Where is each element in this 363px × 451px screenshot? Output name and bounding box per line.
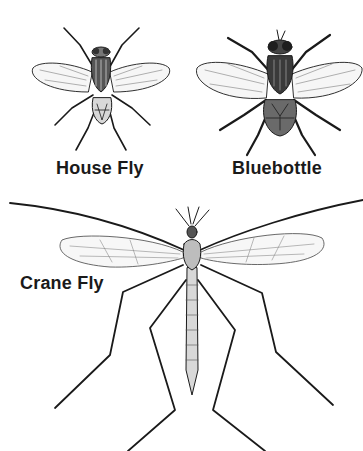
crane-fly-label: Crane Fly [20, 273, 104, 294]
house-fly-label: House Fly [56, 158, 144, 179]
bluebottle-label: Bluebottle [232, 158, 322, 179]
house-fly-drawing [32, 28, 169, 150]
fly-illustration: House Fly Bluebottle Crane Fly [0, 0, 363, 451]
crane-fly-drawing [10, 200, 363, 451]
fly-drawings [0, 0, 363, 451]
bluebottle-drawing [196, 30, 362, 155]
